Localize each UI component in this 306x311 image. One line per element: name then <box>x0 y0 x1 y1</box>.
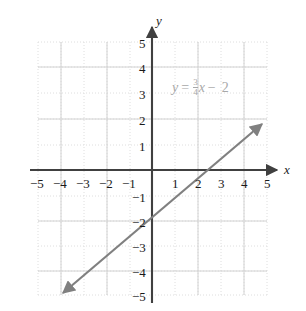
x-tick-label--5: −5 <box>30 177 44 190</box>
y-tick-label-2: 2 <box>139 114 146 127</box>
y-axis-label: y <box>156 14 162 27</box>
line-series <box>63 124 262 293</box>
coordinate-plane <box>0 0 306 311</box>
y-tick-label-5: 5 <box>139 37 146 50</box>
fraction-numerator: 3 <box>193 78 198 87</box>
x-axis-label: x <box>284 163 290 176</box>
y-tick-label--1: −1 <box>132 191 146 204</box>
fraction-denominator: 4 <box>193 87 198 97</box>
y-tick-label-3: 3 <box>139 88 146 101</box>
equation-minus-sign: − <box>208 81 216 95</box>
y-tick-label--3: −3 <box>132 241 146 254</box>
graph-figure: −5 −4 −3 −2 −1 1 2 3 4 5 5 4 3 2 1 −1 −2… <box>0 0 306 311</box>
y-tick-label-1: 1 <box>139 140 146 153</box>
linear-function-line <box>63 124 262 293</box>
x-tick-label--2: −2 <box>99 177 113 190</box>
equation-annotation: y = 3 4 x − 2 <box>172 78 232 98</box>
y-tick-label-4: 4 <box>139 62 146 75</box>
x-tick-label-5: 5 <box>264 177 271 190</box>
x-tick-label-3: 3 <box>218 177 225 190</box>
x-tick-label-1: 1 <box>172 177 179 190</box>
equation-fraction: 3 4 <box>193 78 198 98</box>
equation-constant: 2 <box>222 81 229 95</box>
y-tick-label--4: −4 <box>132 266 146 279</box>
x-tick-label-4: 4 <box>241 177 248 190</box>
x-tick-label--1: −1 <box>122 177 136 190</box>
axes <box>30 27 277 303</box>
equation-equals-sign: = <box>181 81 189 95</box>
x-tick-label--3: −3 <box>76 177 90 190</box>
equation-variable: x <box>199 81 205 95</box>
x-tick-label-2: 2 <box>195 177 202 190</box>
equation-lhs: y <box>172 81 178 95</box>
y-tick-label--2: −2 <box>132 216 146 229</box>
y-tick-label--5: −5 <box>132 290 146 303</box>
x-tick-label--4: −4 <box>53 177 67 190</box>
